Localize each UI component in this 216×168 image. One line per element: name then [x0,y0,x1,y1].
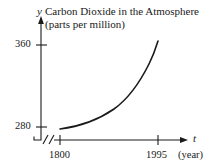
x-axis-arrowhead [180,137,188,143]
x-tick-label-1800: 1800 [49,150,70,161]
chart-units-subtitle: (parts per million) [45,19,125,30]
y-tick-label-360: 360 [15,39,31,50]
y-axis-variable-label: y [37,6,42,17]
y-tick-label-280: 280 [15,121,31,132]
chart-title: Carbon Dioxide in the Atmosphere [45,6,199,17]
x-axis-variable-label: t [193,133,196,144]
axis-break-slash-second-icon [49,135,54,144]
co2-chart-figure: y Carbon Dioxide in the Atmosphere (part… [0,0,216,168]
axis-break-hook-icon [34,136,41,140]
axis-break-slash-first-icon [43,135,48,144]
y-axis-arrowhead [38,16,44,24]
x-tick-label-1995: 1995 [146,150,167,161]
x-axis-units-label: (year) [178,150,203,161]
co2-curve [60,41,158,129]
